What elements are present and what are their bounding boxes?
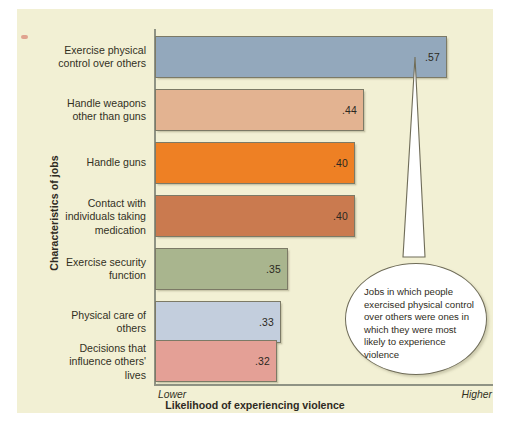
bar-value-label: .40	[333, 158, 348, 169]
category-label: Handle weapons other than guns	[20, 97, 146, 124]
bar[interactable]: .32	[155, 340, 277, 382]
category-label: Physical care of others	[20, 309, 146, 336]
bar[interactable]: .40	[155, 142, 355, 184]
bar-row: Handle guns .40	[138, 142, 494, 184]
chart-panel: Characteristics of jobs Exercise physica…	[17, 9, 493, 413]
bar[interactable]: .33	[155, 301, 281, 343]
category-label: Exercise security function	[20, 256, 146, 283]
category-label: Handle guns	[20, 156, 146, 169]
bar-value-label: .44	[342, 105, 357, 116]
x-axis-line	[154, 384, 493, 386]
bar-value-label: .35	[266, 264, 281, 275]
x-axis-title: Likelihood of experiencing violence	[17, 399, 493, 411]
bar-value-label: .40	[333, 211, 348, 222]
bar[interactable]: .40	[155, 195, 355, 237]
bar[interactable]: .35	[155, 248, 288, 290]
annotation-callout: Jobs in which people exercised physical …	[345, 263, 487, 375]
chart-figure: Characteristics of jobs Exercise physica…	[0, 0, 510, 432]
category-label: Contact with individuals taking medicati…	[20, 197, 146, 237]
bar-row: Handle weapons other than guns .44	[138, 89, 494, 131]
bar[interactable]: .57	[155, 36, 447, 78]
bar-value-label: .57	[425, 52, 440, 63]
bar-row: Exercise physical control over others .5…	[138, 36, 494, 78]
bar-value-label: .32	[255, 356, 270, 367]
category-label: Exercise physical control over others	[20, 44, 146, 71]
category-label: Decisions that influence others' lives	[20, 342, 146, 382]
bar-row: Contact with individuals taking medicati…	[138, 195, 494, 237]
bar[interactable]: .44	[155, 89, 364, 131]
annotation-text: Jobs in which people exercised physical …	[364, 286, 476, 362]
bar-value-label: .33	[259, 317, 274, 328]
page-speck	[21, 35, 28, 39]
